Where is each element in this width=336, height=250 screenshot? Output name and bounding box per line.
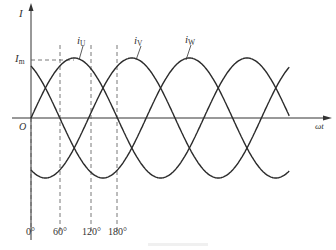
dashed-guides	[31, 45, 117, 232]
y-axis-arrow-icon	[29, 3, 34, 11]
axes	[12, 3, 332, 240]
iw-label: iW	[185, 33, 196, 47]
three-phase-current-chart: I ωt O Im iU iV iW 0° 60° 120° 180°	[0, 0, 336, 250]
tick-120deg: 120°	[82, 226, 101, 237]
origin-label: O	[19, 121, 26, 132]
tick-0deg: 0°	[26, 226, 35, 237]
x-axis-label: ωt	[315, 121, 324, 131]
tick-60deg: 60°	[53, 226, 67, 237]
x-axis-arrow-icon	[323, 116, 332, 121]
y-axis-label: I	[18, 7, 24, 19]
peak-label: Im	[14, 52, 25, 66]
iu-label: iU	[77, 34, 86, 48]
faint-caption	[148, 243, 208, 246]
tick-180deg: 180°	[108, 226, 127, 237]
iv-label: iV	[134, 34, 143, 48]
